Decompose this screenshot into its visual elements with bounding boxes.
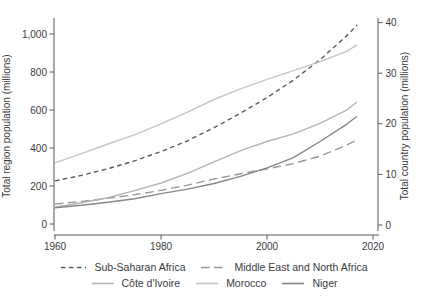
left-axis-tick-label: 0 [41, 219, 47, 230]
dashed-line-icon [60, 263, 87, 272]
legend-item-sub-saharan-africa: Sub-Saharan Africa [60, 261, 185, 273]
series-lines [55, 25, 357, 208]
series-line-morocco [55, 45, 357, 163]
right-axis-tick-label: 20 [386, 118, 398, 129]
solid-line-icon [91, 279, 115, 288]
left-axis-tick-label: 200 [30, 181, 47, 192]
legend-label: Morocco [226, 277, 266, 289]
legend: Sub-Saharan Africa Middle East and North… [0, 261, 428, 289]
legend-item-niger: Niger [281, 277, 337, 289]
long-dashed-line-icon [200, 263, 227, 272]
series-line-middle-east-and-north-africa [55, 140, 357, 204]
right-axis-tick-label: 30 [386, 68, 398, 79]
x-axis-tick-label: 2000 [256, 241, 279, 252]
x-axis-tick-label: 1960 [44, 241, 67, 252]
legend-label: Sub-Saharan Africa [94, 261, 185, 273]
solid-line-icon [281, 279, 305, 288]
legend-label: Côte d'Ivoire [122, 277, 181, 289]
legend-label: Middle East and North Africa [234, 261, 367, 273]
left-axis-tick-label: 800 [30, 67, 47, 78]
right-axis-title: Total country population (millions) [399, 52, 410, 200]
legend-row-countries: Côte d'Ivoire Morocco Niger [91, 277, 338, 289]
legend-row-regions: Sub-Saharan Africa Middle East and North… [60, 261, 367, 273]
axes: 02004006008001,0000102030401960198020002… [22, 17, 397, 252]
series-line-niger [55, 116, 357, 208]
right-axis-tick-label: 10 [386, 169, 398, 180]
legend-item-morocco: Morocco [195, 277, 266, 289]
legend-label: Niger [312, 277, 337, 289]
legend-item-cote-divoire: Côte d'Ivoire [91, 277, 181, 289]
x-axis-tick-label: 2020 [362, 241, 385, 252]
left-axis-tick-label: 600 [30, 105, 47, 116]
right-axis-tick-label: 40 [386, 17, 398, 28]
solid-line-icon [195, 279, 219, 288]
x-axis-tick-label: 1980 [150, 241, 173, 252]
left-axis-tick-label: 400 [30, 143, 47, 154]
series-line-c-te-d-ivoire [55, 102, 357, 207]
left-axis-tick-label: 1,000 [22, 29, 47, 40]
legend-item-middle-east-and-north-africa: Middle East and North Africa [200, 261, 367, 273]
left-axis-title: Total region population (millions) [1, 54, 12, 197]
right-axis-tick-label: 0 [386, 220, 392, 231]
population-line-chart-figure: 02004006008001,0000102030401960198020002… [0, 0, 428, 308]
